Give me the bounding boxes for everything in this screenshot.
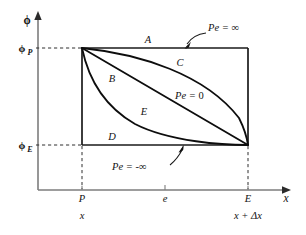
annotation-pe-infinity: Pe = ∞: [184, 22, 239, 49]
x-tick-label-e-face: e: [163, 193, 168, 204]
axis-group: [34, 11, 291, 194]
annotation-pe-negative-infinity-leader: [170, 150, 182, 165]
annotation-pe-negative-infinity-label: Pe = -∞: [111, 161, 146, 172]
profile-curve-b-pe-zero: [82, 48, 248, 145]
y-tick-phi-e-subscript: E: [26, 145, 32, 154]
y-tick-label-phi-e: ϕ E: [19, 139, 33, 154]
y-axis-arrowhead: [34, 11, 41, 20]
annotation-pe-negative-infinity: Pe = -∞: [111, 145, 184, 172]
y-axis-title: ϕ: [23, 14, 30, 27]
annotation-pe-infinity-leader: [187, 33, 206, 44]
y-tick-phi-p-subscript: P: [28, 48, 33, 57]
y-tick-phi-e-symbol: ϕ: [19, 139, 26, 151]
x-tick-label-e: E: [244, 193, 252, 204]
curve-label-a: A: [144, 34, 152, 45]
y-tick-label-phi-p: ϕ P: [19, 42, 33, 57]
peclet-profile-diagram: ϕ x ϕ P ϕ E: [0, 0, 306, 235]
x-tick-label-p: P: [78, 193, 86, 204]
curve-label-e: E: [140, 106, 148, 117]
x-coord-label-p: x: [79, 210, 85, 221]
curve-label-b: B: [109, 73, 116, 84]
figure-container: ϕ x ϕ P ϕ E: [0, 0, 306, 235]
y-tick-phi-p-symbol: ϕ: [19, 42, 26, 54]
x-coord-label-e: x + Δx: [233, 210, 262, 221]
annotation-pe-infinity-label: Pe = ∞: [207, 22, 239, 33]
x-axis-title: x: [282, 192, 289, 204]
annotation-pe-zero-label: Pe = 0: [174, 90, 204, 101]
curve-label-c: C: [176, 57, 184, 68]
curve-label-d: D: [107, 131, 116, 142]
